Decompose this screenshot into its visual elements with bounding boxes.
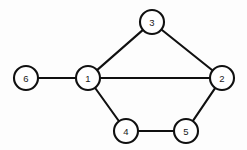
graph-edge-3-2 <box>161 30 212 71</box>
graph-edge-5-2 <box>193 88 216 121</box>
graph-edge-1-3 <box>97 30 143 70</box>
graph-node-label-4: 4 <box>123 126 128 137</box>
graph-node-3[interactable]: 3 <box>140 10 164 34</box>
graph-node-label-3: 3 <box>149 17 154 28</box>
graph-node-label-2: 2 <box>219 73 224 84</box>
graph-edge-1-4 <box>95 88 119 122</box>
graph-node-6[interactable]: 6 <box>14 66 38 90</box>
graph-diagram: 613245 <box>0 0 247 150</box>
graph-node-2[interactable]: 2 <box>210 66 234 90</box>
graph-node-label-1: 1 <box>85 73 90 84</box>
graph-node-label-6: 6 <box>23 73 28 84</box>
graph-node-label-5: 5 <box>183 126 188 137</box>
graph-edges-layer <box>38 30 215 132</box>
graph-node-1[interactable]: 1 <box>76 66 100 90</box>
graph-nodes-layer: 613245 <box>14 10 234 143</box>
graph-node-5[interactable]: 5 <box>174 119 198 143</box>
graph-node-4[interactable]: 4 <box>114 119 138 143</box>
